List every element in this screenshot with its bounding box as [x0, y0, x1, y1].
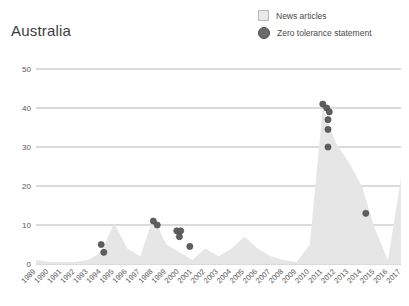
x-tick-label-2017: 2017	[384, 267, 402, 285]
scatter-point-14[interactable]	[363, 210, 369, 216]
scatter-point-0[interactable]	[98, 241, 104, 247]
scatter-point-1[interactable]	[101, 249, 107, 255]
y-tick-label-50: 50	[22, 65, 31, 74]
chart-svg: 01020304050 1989199019911992199319941995…	[0, 0, 409, 306]
scatter-point-13[interactable]	[325, 144, 331, 150]
y-tick-label-20: 20	[22, 182, 31, 191]
x-axis-tick-labels: 1989199019911992199319941995199619971998…	[19, 267, 402, 285]
scatter-point-10[interactable]	[326, 109, 332, 115]
y-tick-label-40: 40	[22, 104, 31, 113]
y-axis-tick-labels: 01020304050	[22, 65, 31, 269]
scatter-point-12[interactable]	[325, 126, 331, 132]
y-tick-label-10: 10	[22, 221, 31, 230]
y-tick-label-30: 30	[22, 143, 31, 152]
scatter-point-7[interactable]	[187, 243, 193, 249]
scatter-point-3[interactable]	[154, 222, 160, 228]
scatter-point-5[interactable]	[178, 228, 184, 234]
chart-plot-area: 01020304050 1989199019911992199319941995…	[0, 0, 409, 306]
scatter-point-6[interactable]	[176, 234, 182, 240]
chart-page: Australia News articles Zero tolerance s…	[0, 0, 409, 306]
scatter-point-11[interactable]	[325, 117, 331, 123]
